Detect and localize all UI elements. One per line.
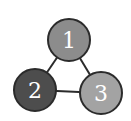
- node-1-label: 1: [62, 28, 76, 53]
- node-3: 3: [80, 72, 122, 114]
- node-2: 2: [14, 69, 56, 111]
- graph-diagram: 1 2 3: [0, 0, 131, 121]
- node-1: 1: [48, 19, 90, 61]
- node-3-label: 3: [94, 81, 108, 106]
- node-2-label: 2: [28, 78, 42, 103]
